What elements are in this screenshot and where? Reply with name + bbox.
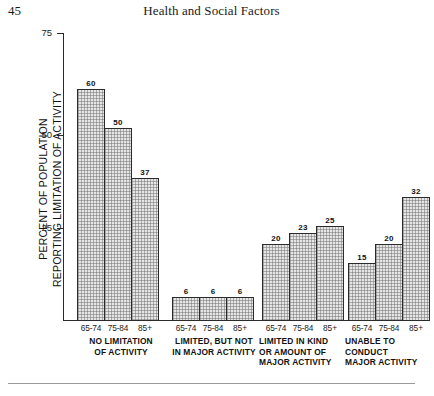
bar	[402, 197, 430, 321]
group-title: NO LIMITATION OF ACTIVITY	[71, 336, 171, 357]
bar-value: 6	[223, 287, 257, 296]
footer-rule	[8, 383, 415, 384]
y-axis-line	[63, 33, 64, 321]
y-axis-tick-25	[57, 228, 64, 229]
y-axis-tick-label-25: 25	[12, 222, 52, 233]
y-axis-tick-75	[57, 33, 64, 34]
bar	[316, 226, 344, 321]
bar	[375, 244, 403, 321]
bar-value: 20	[372, 234, 406, 243]
x-axis-tick-label: 85+	[128, 323, 162, 333]
bar-value: 15	[345, 253, 379, 262]
bar	[226, 297, 254, 321]
bar	[348, 263, 376, 321]
bar	[199, 297, 227, 321]
y-axis-tick-50	[57, 135, 64, 136]
group-title: LIMITED, BUT NOT IN MAJOR ACTIVITY	[164, 336, 264, 357]
bar	[104, 128, 132, 321]
y-axis-tick-label-50: 50	[12, 129, 52, 140]
bar-value: 37	[128, 168, 162, 177]
y-axis-title: PERCENT OF POPULATION REPORTING LIMITATI…	[36, 54, 64, 324]
x-axis-tick-label: 85+	[313, 323, 347, 333]
bar-value: 25	[313, 216, 347, 225]
y-axis-tick-label-75: 75	[12, 27, 52, 38]
bar	[262, 244, 290, 321]
bar-value: 60	[74, 79, 108, 88]
group-title: UNABLE TO CONDUCT MAJOR ACTIVITY	[345, 336, 434, 368]
bar	[172, 297, 200, 321]
x-axis-tick-label: 85+	[399, 323, 433, 333]
bar-value: 50	[101, 118, 135, 127]
x-axis-tick-label: 85+	[223, 323, 257, 333]
bar-value: 20	[259, 234, 293, 243]
bar	[131, 178, 159, 321]
bar-value: 32	[399, 187, 433, 196]
bar	[289, 233, 317, 321]
